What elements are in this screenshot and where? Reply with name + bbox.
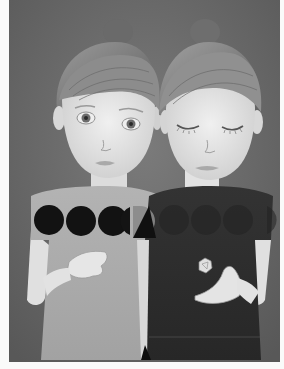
right-hair-bun xyxy=(190,19,220,45)
left-dress-circles xyxy=(34,205,130,236)
image-frame: Twin girls illustration xyxy=(0,0,284,369)
artwork xyxy=(9,0,280,362)
left-pupil-b xyxy=(129,122,133,126)
left-pupil-a xyxy=(84,116,88,120)
artwork-canvas xyxy=(9,0,280,362)
left-hair-bun xyxy=(103,19,133,45)
